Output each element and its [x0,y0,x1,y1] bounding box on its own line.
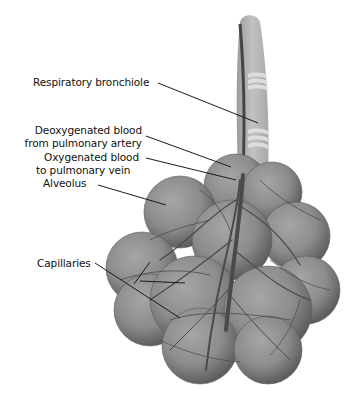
leader-deoxygenated-blood [146,136,231,167]
label-text-line-1: Deoxygenated blood [21,124,142,137]
label-text-line-2: from pulmonary artery [21,137,142,150]
label-text-line-2: to pulmonary vein [36,164,139,177]
label-alveolus: Alveolus [43,177,86,190]
label-text: Alveolus [43,177,86,189]
label-text-line-1: Oxygenated blood [43,151,139,164]
alveoli-illustration [0,0,352,394]
label-oxygenated-blood: Oxygenated blood to pulmonary vein [43,151,139,177]
alveoli-diagram: Respiratory bronchiole Deoxygenated bloo… [0,0,352,394]
label-respiratory-bronchiole: Respiratory bronchiole [33,76,149,89]
label-text: Capillaries [37,257,91,269]
label-capillaries: Capillaries [37,257,91,270]
bronchiole-tube [237,15,269,175]
label-text: Respiratory bronchiole [33,76,149,88]
label-deoxygenated-blood: Deoxygenated blood from pulmonary artery [21,124,142,150]
